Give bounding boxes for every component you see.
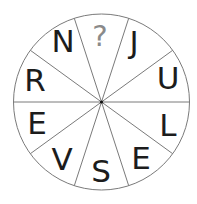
letter-wheel-puzzle: ? J U L E S V E R N: [0, 0, 197, 204]
sector-label-top-left: N: [51, 23, 74, 59]
center-dot: [100, 100, 103, 103]
sector-label-bottom-right: E: [131, 140, 151, 176]
sector-label-left-upper: R: [24, 62, 46, 98]
sector-label-left-lower: E: [27, 105, 47, 141]
sector-label-right-upper: U: [157, 60, 180, 96]
sector-label-top-unknown: ?: [92, 19, 107, 53]
sector-label-top-right: J: [127, 24, 138, 60]
sector-label-bottom-left: V: [51, 141, 72, 177]
sector-label-right-lower: L: [159, 107, 177, 143]
sector-label-bottom: S: [91, 153, 111, 189]
